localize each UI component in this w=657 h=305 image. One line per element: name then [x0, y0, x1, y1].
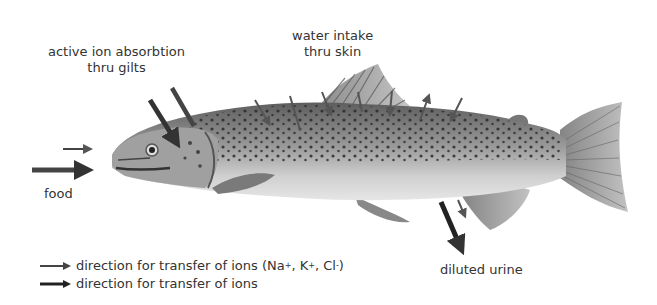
legend-item-ions-specific: direction for transfer of ions (Na+, K+,…	[40, 258, 344, 274]
gills-label: active ion absorbtion thru gilts	[48, 44, 185, 76]
thick-arrow-icon	[40, 280, 72, 288]
food-label: food	[44, 186, 73, 202]
urine-label: diluted urine	[440, 262, 523, 278]
urine-arrow-thin	[458, 200, 464, 214]
urine-arrow-thick	[441, 202, 460, 246]
fish-head	[112, 128, 218, 189]
skin-label: water intake thru skin	[292, 28, 373, 60]
legend-item-ions: direction for transfer of ions	[40, 276, 258, 292]
thin-arrow-icon	[40, 262, 72, 270]
tail-fin	[560, 102, 628, 212]
